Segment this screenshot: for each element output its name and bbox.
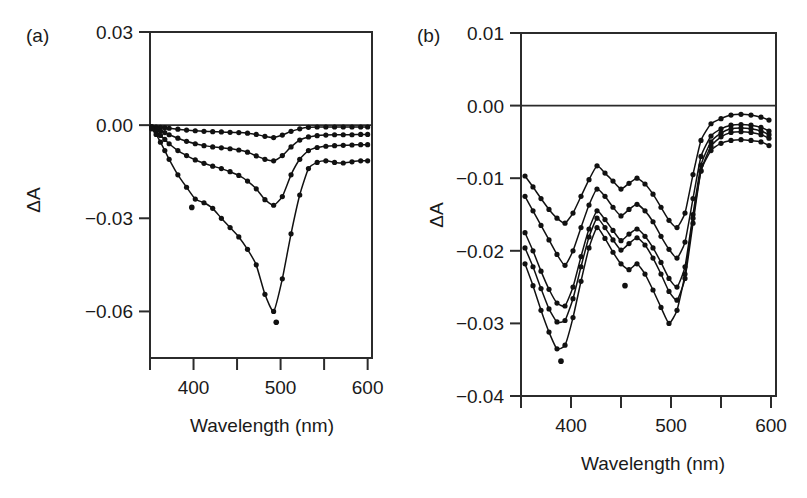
data-point-marker (766, 136, 771, 141)
data-point-marker (586, 177, 591, 182)
data-point-marker (158, 133, 163, 138)
data-point-marker (650, 219, 655, 224)
data-point-marker (758, 139, 763, 144)
data-point-marker (642, 242, 647, 247)
data-point-marker (236, 173, 241, 178)
data-point-marker (586, 202, 591, 207)
data-point-marker (149, 126, 154, 131)
data-point-marker (626, 267, 631, 272)
data-point-marker (554, 216, 559, 221)
data-point-marker (578, 279, 583, 284)
data-point-marker (682, 210, 687, 215)
data-point-marker (708, 133, 713, 138)
data-point-marker (184, 185, 189, 190)
data-point-marker (280, 153, 285, 158)
data-point-marker (167, 126, 172, 131)
data-point-marker (201, 161, 206, 166)
data-point-marker (227, 225, 232, 230)
data-point-marker (610, 237, 615, 242)
data-point-marker (642, 181, 647, 186)
data-point-marker (538, 269, 543, 274)
data-point-marker (297, 126, 302, 131)
data-point-marker (586, 234, 591, 239)
data-point-marker (530, 283, 535, 288)
data-point-marker (210, 164, 215, 169)
data-point-marker (650, 245, 655, 250)
data-point-marker (271, 309, 276, 314)
data-point-marker (642, 271, 647, 276)
data-point-marker (690, 172, 695, 177)
data-point-marker (227, 146, 232, 151)
y-tick-label: 0.00 (467, 96, 504, 117)
data-point-marker (365, 142, 370, 147)
data-point-marker (570, 248, 575, 253)
data-point-marker (365, 124, 370, 129)
data-point-marker (618, 213, 623, 218)
y-tick-label: −0.01 (456, 168, 504, 189)
data-point-marker (594, 225, 599, 230)
data-point-marker (210, 206, 215, 211)
y-tick-label: 0.03 (96, 22, 133, 43)
data-point-marker (618, 238, 623, 243)
panel-b-y-axis-title: ΔA (426, 202, 447, 228)
data-point-marker (758, 115, 763, 120)
outlier-point-marker (622, 283, 628, 289)
data-point-marker (666, 218, 671, 223)
data-point-marker (546, 207, 551, 212)
data-point-marker (748, 112, 753, 117)
data-point-marker (562, 318, 567, 323)
data-point-marker (315, 133, 320, 138)
data-point-marker (538, 223, 543, 228)
data-point-marker (674, 255, 679, 260)
data-point-marker (358, 158, 363, 163)
data-point-marker (297, 157, 302, 162)
data-point-marker (562, 263, 567, 268)
data-point-marker (538, 286, 543, 291)
outlier-point-marker (189, 205, 195, 211)
data-point-marker (175, 127, 180, 132)
data-point-marker (738, 129, 743, 134)
data-point-marker (698, 138, 703, 143)
data-point-marker (562, 343, 567, 348)
data-point-marker (271, 135, 276, 140)
data-point-marker (193, 157, 198, 162)
data-point-marker (578, 194, 583, 199)
data-point-marker (738, 112, 743, 117)
data-point-marker (626, 241, 631, 246)
data-point-marker (530, 248, 535, 253)
data-point-marker (288, 129, 293, 134)
data-point-marker (748, 130, 753, 135)
data-point-marker (254, 132, 259, 137)
panel-b-svg: 0.010.00−0.01−0.02−0.03−0.04400500600 (b… (403, 0, 806, 498)
data-point-marker (554, 346, 559, 351)
data-point-marker (162, 125, 167, 130)
data-point-marker (718, 116, 723, 121)
data-point-marker (280, 276, 285, 281)
data-point-marker (341, 143, 346, 148)
data-point-marker (219, 145, 224, 150)
data-point-marker (184, 128, 189, 133)
data-point-marker (271, 158, 276, 163)
data-point-marker (666, 247, 671, 252)
data-point-marker (530, 264, 535, 269)
data-point-marker (626, 181, 631, 186)
data-point-marker (193, 141, 198, 146)
data-point-marker (562, 303, 567, 308)
data-point-marker (602, 236, 607, 241)
x-tick-label: 500 (265, 377, 297, 398)
data-point-marker (530, 184, 535, 189)
data-point-marker (358, 142, 363, 147)
data-point-marker (297, 137, 302, 142)
data-point-marker (766, 143, 771, 148)
data-point-marker (288, 172, 293, 177)
data-point-marker (323, 124, 328, 129)
panel-b: 0.010.00−0.01−0.02−0.03−0.04400500600 (b… (403, 0, 806, 498)
data-point-marker (538, 308, 543, 313)
data-point-marker (728, 130, 733, 135)
data-point-marker (210, 129, 215, 134)
data-point-marker (570, 315, 575, 320)
data-point-marker (618, 247, 623, 252)
data-point-marker (175, 172, 180, 177)
data-point-marker (201, 129, 206, 134)
data-point-marker (530, 208, 535, 213)
